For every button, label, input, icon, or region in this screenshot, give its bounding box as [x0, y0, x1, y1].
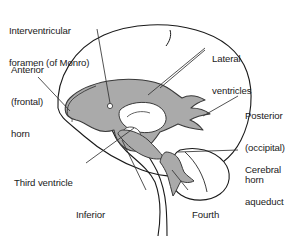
- label-posterior-horn-line1: Posterior: [245, 111, 285, 122]
- label-interventricular-foramen-line1: Interventricular: [9, 26, 89, 37]
- label-cerebral-aqueduct: Cerebral aqueduct: [245, 144, 284, 229]
- label-lateral-ventricles-line1: Lateral: [212, 54, 252, 65]
- label-anterior-horn-line2: (frontal): [11, 97, 44, 108]
- interventricular-foramen-void: [107, 103, 112, 108]
- label-anterior-horn-line1: Anterior: [11, 65, 44, 76]
- label-anterior-horn: Anterior (frontal) horn: [11, 44, 44, 161]
- label-fourth-ventricle-line1: Fourth: [192, 210, 227, 221]
- brain-ventricles-diagram: Interventricular foramen (of Monro) Ante…: [0, 0, 307, 236]
- label-inferior-horn-line1: Inferior: [76, 210, 140, 221]
- label-cerebral-aqueduct-line1: Cerebral: [245, 165, 284, 176]
- label-fourth-ventricle: Fourth ventricle: [192, 189, 227, 236]
- label-third-ventricle: Third ventricle: [14, 157, 73, 210]
- label-anterior-horn-line3: horn: [11, 129, 44, 140]
- label-inferior-horn: Inferior (temporal) horn: [76, 189, 140, 236]
- label-third-ventricle-line1: Third ventricle: [14, 178, 73, 189]
- label-cerebral-aqueduct-line2: aqueduct: [245, 197, 284, 208]
